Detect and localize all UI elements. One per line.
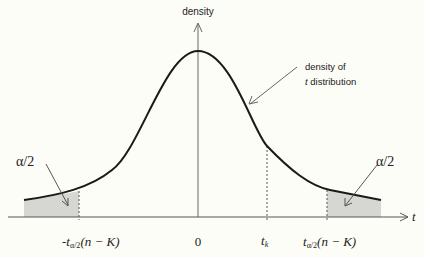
tk-label: tk: [261, 233, 269, 249]
curve-annotation-line1: density of: [305, 61, 346, 72]
curve-annotation-rest: distribution: [308, 76, 357, 87]
tk-sub: k: [265, 240, 269, 249]
left-tail-label: α/2: [16, 154, 34, 169]
x-axis-label: t: [412, 209, 416, 224]
left-critical-args: (n − K): [80, 234, 119, 249]
y-axis-label: density: [182, 6, 214, 17]
zero-label: 0: [195, 234, 202, 249]
t-distribution-diagram: density t density of t distribution α/2 …: [0, 0, 424, 257]
right-critical-value-label: tα/2(n − K): [303, 234, 356, 250]
t-density-curve: [24, 51, 381, 200]
curve-annotation-arrowhead-icon: [249, 96, 258, 104]
right-critical-sub: α/2: [307, 241, 317, 250]
left-critical-value-label: -tα/2(n − K): [62, 234, 119, 250]
curve-annotation-line2: t distribution: [305, 76, 356, 87]
right-critical-args: (n − K): [317, 234, 356, 249]
curve-annotation-arrow: [250, 67, 297, 104]
left-critical-sub: α/2: [70, 241, 80, 250]
right-tail-label: α/2: [376, 154, 394, 169]
